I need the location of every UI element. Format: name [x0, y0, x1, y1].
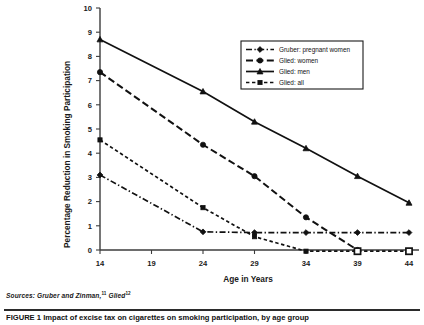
figure-caption-number: FIGURE 1 [6, 313, 41, 322]
data-point-marker-circle [257, 58, 262, 63]
data-point-marker-square [258, 80, 262, 84]
x-tick-label: 14 [96, 259, 105, 268]
series-1 [97, 70, 360, 253]
figure-root: Percentage Reduction in Smoking Particip… [0, 0, 424, 325]
data-point-marker-square [98, 138, 102, 142]
data-point-marker-circle [97, 70, 102, 75]
series-line [100, 72, 358, 250]
data-point-marker-diamond [406, 230, 412, 236]
figure-caption-text: Impact of excise tax on cigarettes on sm… [43, 313, 309, 322]
data-point-marker-square [354, 248, 360, 254]
y-tick-label: 1 [88, 222, 93, 231]
data-point-marker-circle [252, 174, 257, 179]
sources-ref-1: 11 [101, 291, 106, 296]
data-point-marker-square [201, 206, 205, 210]
x-tick-label: 39 [353, 259, 361, 268]
y-tick-label: 8 [88, 52, 92, 61]
y-tick-label: 0 [88, 246, 92, 255]
chart-legend: Gruber: pregnant womenGlied: womenGlied:… [241, 41, 363, 89]
y-tick-label: 9 [88, 28, 92, 37]
y-tick-label: 10 [84, 4, 92, 13]
series-0 [97, 172, 412, 235]
x-axis-title: Age in Years [223, 274, 273, 284]
y-axis-title: Percentage Reduction in Smoking Particip… [62, 61, 72, 248]
y-tick-label: 2 [88, 197, 92, 206]
data-point-marker-triangle [97, 36, 103, 41]
series-line [100, 175, 409, 233]
y-tick-label: 6 [88, 101, 92, 110]
chart-area: Percentage Reduction in Smoking Particip… [0, 0, 424, 288]
series-3 [98, 138, 412, 255]
sources-text: Gruber and Zinman, [37, 292, 101, 299]
sources-label: Sources: [6, 292, 35, 299]
legend-label: Glied: men [279, 68, 310, 75]
legend-label: Gruber: pregnant women [279, 46, 350, 54]
y-tick-label: 4 [88, 149, 93, 158]
y-tick-label: 3 [88, 173, 92, 182]
legend-label: Glied: women [279, 57, 319, 64]
line-chart: Percentage Reduction in Smoking Particip… [0, 0, 424, 288]
legend-label: Glied: all [279, 79, 304, 86]
data-point-marker-circle [303, 215, 308, 220]
caption-divider [4, 309, 420, 311]
x-tick-label: 44 [405, 259, 414, 268]
sources-note: Sources: Gruber and Zinman,11 Glied12 [6, 291, 131, 299]
x-tick-label: 24 [199, 259, 208, 268]
data-point-marker-square [252, 235, 256, 239]
data-point-marker-circle [200, 142, 205, 147]
x-tick-label: 19 [147, 259, 155, 268]
y-tick-label: 7 [88, 76, 92, 85]
sources-ref-2: 12 [125, 291, 130, 296]
data-point-marker-square [406, 248, 412, 254]
x-tick-label: 34 [302, 259, 311, 268]
x-tick-label: 29 [250, 259, 258, 268]
sources-text-2: Glied [108, 292, 125, 299]
data-point-marker-diamond [303, 230, 309, 236]
data-point-marker-diamond [355, 230, 361, 236]
data-point-marker-square [304, 249, 308, 253]
y-tick-label: 5 [88, 125, 93, 134]
figure-caption: FIGURE 1 Impact of excise tax on cigaret… [6, 313, 418, 322]
